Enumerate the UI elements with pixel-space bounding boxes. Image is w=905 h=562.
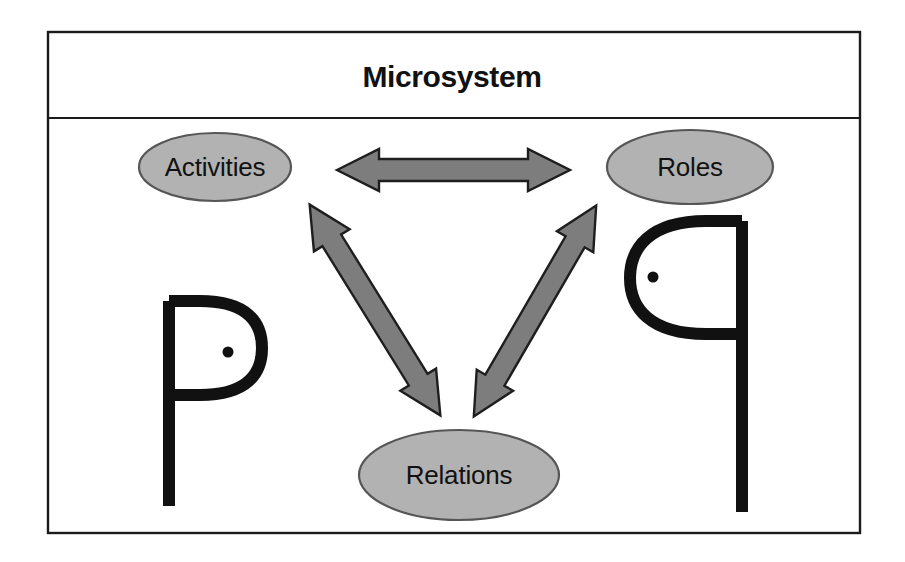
- diagram-stage: Microsystem Activities Roles: [0, 0, 905, 562]
- microsystem-diagram: Microsystem Activities Roles: [0, 0, 905, 562]
- person-right-eye-icon: [648, 272, 659, 283]
- person-left-eye-icon: [223, 347, 234, 358]
- node-activities[interactable]: Activities: [139, 133, 291, 201]
- node-roles[interactable]: Roles: [607, 130, 773, 204]
- node-relations[interactable]: Relations: [359, 430, 559, 520]
- node-activities-label: Activities: [165, 152, 266, 182]
- page-title: Microsystem: [362, 60, 541, 93]
- node-relations-label: Relations: [406, 460, 513, 490]
- node-roles-label: Roles: [657, 152, 723, 182]
